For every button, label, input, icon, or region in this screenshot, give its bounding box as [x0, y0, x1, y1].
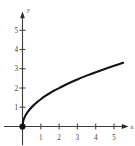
x-tick-label: 5 — [112, 134, 116, 142]
x-tick-label: 1 — [39, 134, 43, 142]
y-tick-label: 2 — [15, 85, 19, 93]
square-root-plot: y x 5 4 3 2 1 1 2 3 — [0, 0, 135, 146]
y-tick-label: 5 — [15, 27, 19, 35]
y-tick-label: 3 — [15, 65, 19, 73]
origin-point-marker — [19, 123, 25, 129]
y-tick-label: 4 — [15, 46, 19, 54]
y-tick-label: 1 — [15, 104, 19, 112]
x-tick-label: 3 — [76, 134, 80, 142]
x-tick-label: 2 — [57, 134, 61, 142]
x-tick-label: 4 — [94, 134, 98, 142]
plot-background — [0, 0, 135, 146]
chart-figure: y x 5 4 3 2 1 1 2 3 — [0, 0, 135, 146]
